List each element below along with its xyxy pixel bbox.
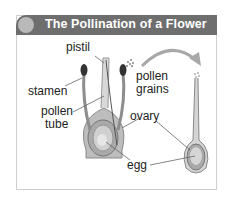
label-ovary: ovary xyxy=(130,110,159,122)
label-egg: egg xyxy=(127,159,147,171)
left-flower-icon xyxy=(81,58,127,158)
flower-diagram xyxy=(0,0,229,201)
label-pollen-grains-1: pollen xyxy=(136,70,168,82)
right-flower-icon xyxy=(184,72,208,173)
label-stamen: stamen xyxy=(28,85,67,97)
transfer-arrow-icon xyxy=(142,50,201,66)
label-pollen-tube-2: tube xyxy=(45,118,68,130)
label-pollen-tube-1: pollen xyxy=(41,105,73,117)
pollen-grains-icon xyxy=(126,59,134,67)
label-pollen-grains-2: grains xyxy=(136,83,169,95)
label-pistil: pistil xyxy=(66,41,90,53)
